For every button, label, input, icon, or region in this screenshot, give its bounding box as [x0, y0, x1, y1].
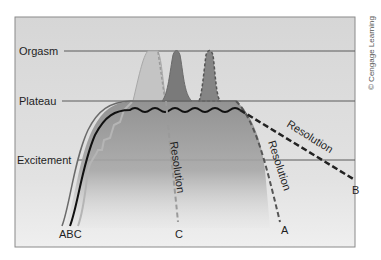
end-label-b: B: [352, 184, 359, 196]
label-plateau: Plateau: [19, 95, 56, 107]
start-labels-abc: ABC: [59, 228, 82, 240]
sexual-response-cycle-diagram: Orgasm Plateau Excitement Resolution Res…: [0, 0, 381, 260]
label-orgasm: Orgasm: [19, 45, 58, 57]
end-label-c: C: [175, 228, 183, 240]
credit-text: © Cengage Learning: [367, 16, 376, 90]
label-excitement: Excitement: [17, 154, 71, 166]
end-label-a: A: [281, 224, 289, 236]
